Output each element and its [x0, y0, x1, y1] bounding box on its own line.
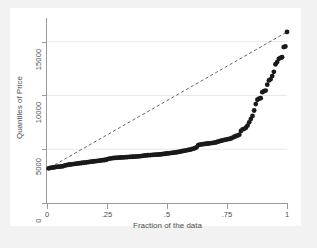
data-point	[270, 74, 275, 79]
data-point	[265, 82, 270, 87]
x-tick-0	[47, 204, 48, 209]
x-tick-0.75	[227, 204, 228, 209]
data-point	[263, 88, 268, 93]
data-point	[252, 108, 257, 113]
x-tick-label-0: 0	[45, 210, 49, 219]
data-point	[280, 55, 285, 60]
x-tick-label-0.75: .75	[222, 210, 232, 219]
x-tick-label-1: 1	[285, 210, 289, 219]
data-point	[258, 96, 263, 101]
data-layer	[47, 18, 287, 203]
y-tick-label-5000: 5000	[34, 148, 43, 186]
gridlines-group	[47, 42, 287, 150]
y-tick-15000	[42, 42, 47, 43]
quantile-plot-figure: 050001000015000 0.25.5.751 Quantiles of …	[0, 0, 317, 248]
x-tick-label-0.25: .25	[102, 210, 112, 219]
y-tick-label-10000: 10000	[34, 94, 43, 132]
x-tick-1	[287, 204, 288, 209]
data-point	[283, 44, 288, 49]
data-point	[250, 113, 255, 118]
x-tick-0.25	[107, 204, 108, 209]
x-axis-title: Fraction of the data	[47, 221, 288, 230]
y-tick-10000	[42, 95, 47, 96]
data-point	[285, 30, 290, 35]
data-point	[253, 102, 258, 107]
x-tick-0.5	[167, 204, 168, 209]
y-axis-title: Quantiles of Price	[15, 53, 24, 163]
y-tick-label-15000: 15000	[34, 40, 43, 78]
diagonal-reference-line	[50, 32, 287, 168]
data-point	[271, 69, 276, 74]
y-tick-label-0: 0	[34, 202, 43, 240]
x-tick-label-0.5: .5	[164, 210, 170, 219]
plot-area	[47, 18, 287, 203]
y-tick-5000	[42, 149, 47, 150]
